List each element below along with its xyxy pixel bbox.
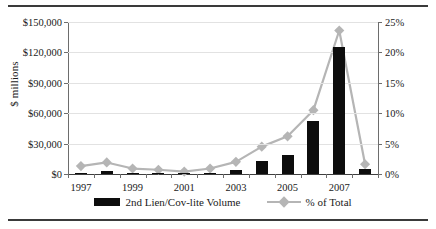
y2-axis-tick-label: 25%: [385, 17, 404, 28]
y-axis-tick-label: $60,000: [28, 108, 62, 119]
legend-label-volume: 2nd Lien/Cov-lite Volume: [125, 196, 240, 208]
gridline: [68, 83, 378, 84]
x-axis-tick-label: 2005: [277, 182, 298, 193]
y2-axis-tick: [378, 52, 382, 53]
bar: [307, 121, 319, 174]
y-axis-tick-label: $150,000: [23, 17, 62, 28]
x-axis-tick-label: 2001: [174, 182, 195, 193]
y2-axis-tick-label: 10%: [385, 108, 404, 119]
y-axis-tick: [64, 52, 68, 53]
percent-of-total-line: [68, 22, 378, 174]
y2-axis-tick-label: 15%: [385, 77, 404, 88]
bar: [359, 169, 371, 174]
bar-swatch-icon: [94, 198, 120, 206]
plot-area: $0$30,000$60,000$90,000$120,000$150,0000…: [68, 22, 378, 174]
x-axis-tick-label: 2003: [225, 182, 246, 193]
y-axis-label: $ millions: [8, 44, 20, 124]
chart-legend: 2nd Lien/Cov-lite Volume % of Total: [68, 196, 378, 208]
y-axis-tick: [64, 22, 68, 23]
top-rule: [8, 5, 428, 7]
bar: [152, 173, 164, 174]
line-marker: [179, 166, 189, 176]
bar: [101, 171, 113, 174]
gridline: [68, 113, 378, 114]
bar: [256, 161, 268, 174]
y2-axis-tick: [378, 22, 382, 23]
x-axis-tick: [249, 174, 250, 178]
x-axis-tick: [120, 174, 121, 178]
x-axis-tick: [68, 174, 69, 178]
x-axis-tick-label: 1999: [122, 182, 143, 193]
legend-item-percent: % of Total: [267, 196, 352, 208]
line-marker: [102, 157, 112, 167]
y2-axis-tick: [378, 144, 382, 145]
bar: [204, 173, 216, 174]
y2-axis-tick: [378, 113, 382, 114]
y2-axis-tick-label: 0%: [385, 169, 399, 180]
y2-axis-tick: [378, 83, 382, 84]
y-axis-tick-label: $120,000: [23, 47, 62, 58]
line-marker: [231, 157, 241, 167]
x-axis-tick-label: 1997: [70, 182, 91, 193]
x-axis-tick-label: 2007: [329, 182, 350, 193]
gridline: [68, 52, 378, 53]
gridline: [68, 144, 378, 145]
chart-figure: $ millions $0$30,000$60,000$90,000$120,0…: [0, 0, 436, 229]
bar: [127, 173, 139, 174]
y-axis-tick: [64, 83, 68, 84]
x-axis-tick: [197, 174, 198, 178]
x-axis-tick: [301, 174, 302, 178]
x-axis-tick: [326, 174, 327, 178]
right-axis-line: [378, 22, 379, 174]
gridline: [68, 22, 378, 23]
y-axis-tick: [64, 113, 68, 114]
legend-item-volume: 2nd Lien/Cov-lite Volume: [94, 196, 240, 208]
bar: [75, 173, 87, 174]
x-axis-tick: [223, 174, 224, 178]
bar: [230, 170, 242, 174]
bar: [178, 173, 190, 174]
line-swatch-icon: [267, 197, 301, 207]
line-marker: [334, 25, 344, 35]
y2-axis-tick-label: 5%: [385, 138, 399, 149]
bar: [333, 47, 345, 174]
y-axis-tick-label: $0: [52, 169, 63, 180]
x-axis-tick: [378, 174, 379, 178]
y-axis-tick-label: $30,000: [28, 138, 62, 149]
line-marker: [76, 161, 86, 171]
y2-axis-tick-label: 20%: [385, 47, 404, 58]
bottom-rule: [8, 219, 428, 221]
x-axis-tick: [94, 174, 95, 178]
x-axis-tick: [146, 174, 147, 178]
bar: [282, 155, 294, 174]
legend-label-percent: % of Total: [306, 196, 352, 208]
x-axis-tick: [275, 174, 276, 178]
x-axis-tick: [171, 174, 172, 178]
x-axis-tick: [352, 174, 353, 178]
y-axis-tick-label: $90,000: [28, 77, 62, 88]
y-axis-tick: [64, 144, 68, 145]
